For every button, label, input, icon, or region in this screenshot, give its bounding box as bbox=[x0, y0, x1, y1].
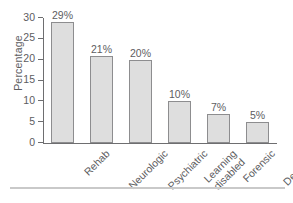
bar: 7% bbox=[207, 114, 230, 143]
bottom-divider-rule bbox=[10, 187, 285, 189]
x-axis-line bbox=[43, 143, 277, 144]
y-axis-tick: 0 bbox=[38, 142, 43, 143]
y-axis-tick-label: 0 bbox=[29, 136, 35, 148]
bar-value-label: 20% bbox=[130, 47, 151, 59]
bar: 29% bbox=[51, 22, 74, 143]
x-axis-tick-label: Dementia bbox=[281, 148, 293, 188]
bar: 20% bbox=[129, 60, 152, 143]
y-axis-tick-label: 5 bbox=[29, 115, 35, 127]
x-axis-tick-label-line: Dementia bbox=[280, 147, 293, 187]
bar: 5% bbox=[246, 122, 269, 143]
x-axis-tick-label: Rehab bbox=[82, 148, 112, 178]
y-axis-tick-label: 10 bbox=[23, 94, 35, 106]
bar: 21% bbox=[90, 56, 113, 144]
x-axis-tick-label: Forensic bbox=[240, 148, 277, 185]
bar-value-label: 29% bbox=[52, 9, 73, 21]
x-axis-tick-label-line: Psychiatric bbox=[165, 147, 209, 191]
y-axis-line bbox=[43, 18, 44, 144]
plot-area: 051015202530 29%21%20%10%7%5% RehabNeuro… bbox=[43, 18, 277, 144]
y-axis-tick-label: 20 bbox=[23, 52, 35, 64]
bar-value-label: 21% bbox=[91, 43, 112, 55]
y-axis-tick: 20 bbox=[38, 59, 43, 60]
x-axis-tick-label: Psychiatric bbox=[165, 148, 209, 192]
y-axis-tick-label: 15 bbox=[23, 73, 35, 85]
bar-value-label: 7% bbox=[211, 101, 226, 113]
y-axis-tick: 15 bbox=[38, 80, 43, 81]
y-axis-tick: 10 bbox=[38, 100, 43, 101]
x-axis-tick-label-line: Rehab bbox=[81, 147, 111, 177]
bar-chart-figure: Percentage 051015202530 29%21%20%10%7%5%… bbox=[0, 0, 293, 203]
bar: 10% bbox=[168, 101, 191, 143]
y-axis-tick: 30 bbox=[38, 17, 43, 18]
bar-value-label: 5% bbox=[250, 109, 265, 121]
bar-value-label: 10% bbox=[169, 88, 190, 100]
x-axis-tick-label-line: Neurologic bbox=[125, 147, 169, 191]
y-axis-tick: 25 bbox=[38, 38, 43, 39]
x-axis-tick-label: Neurologic bbox=[126, 148, 170, 192]
y-axis-tick-label: 30 bbox=[23, 11, 35, 23]
y-axis-tick-label: 25 bbox=[23, 31, 35, 43]
y-axis-title: Percentage bbox=[12, 18, 24, 108]
y-axis-tick: 5 bbox=[38, 121, 43, 122]
